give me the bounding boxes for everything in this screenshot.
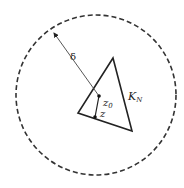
triangle-kn bbox=[78, 58, 132, 131]
point-z0 bbox=[97, 94, 101, 98]
delta-label: δ bbox=[70, 51, 76, 62]
z-label: z bbox=[99, 108, 106, 119]
diagram-canvas: δ z0 z KN bbox=[0, 0, 184, 188]
dashed-circle bbox=[16, 15, 176, 175]
point-z bbox=[93, 115, 97, 119]
segment-z0-z bbox=[95, 96, 99, 117]
radius-arrow bbox=[54, 33, 99, 96]
kn-label: KN bbox=[127, 90, 143, 104]
